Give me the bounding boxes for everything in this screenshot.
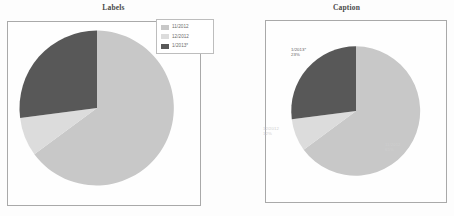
pie-data-label-11-2012: 11/2012 65% (385, 142, 401, 153)
page-canvas: Labels 11/2012 12/2012 (0, 0, 454, 216)
pie-data-label-1-2013: 1/2013* 23% (291, 47, 306, 58)
legend-label: 11/2012 (172, 24, 189, 30)
legend-label: 1/2013* (172, 43, 188, 49)
chart-panel-caption: Caption 1/2013* 23% 12/2012 12% 11/2012 … (227, 0, 454, 216)
pie-svg-labels (18, 29, 176, 187)
legend-item-11-2012[interactable]: 11/2012 (161, 23, 210, 31)
legend-swatch-icon (161, 44, 169, 49)
pie-data-label-12-2012: 12/2012 12% (263, 126, 279, 137)
pie-chart-caption (290, 45, 422, 177)
pie-data-label-percent: 65% (385, 147, 401, 152)
legend-swatch-icon (161, 25, 169, 30)
legend-item-1-2013[interactable]: 1/2013* (161, 42, 210, 50)
chart-panel-labels: Labels 11/2012 12/2012 (0, 0, 227, 216)
chart-title-labels: Labels (0, 2, 243, 13)
pie-svg-caption (290, 45, 422, 177)
legend-label: 12/2012 (172, 34, 189, 40)
legend-swatch-icon (161, 34, 169, 39)
pie-chart-labels (18, 29, 176, 187)
pie-data-label-percent: 12% (263, 131, 279, 136)
chart-legend: 11/2012 12/2012 1/2013* (156, 19, 214, 54)
chart-title-caption: Caption (227, 2, 454, 13)
pie-data-label-percent: 23% (291, 52, 306, 57)
legend-item-12-2012[interactable]: 12/2012 (161, 33, 210, 41)
pie-slice-1-2013 (19, 31, 97, 118)
